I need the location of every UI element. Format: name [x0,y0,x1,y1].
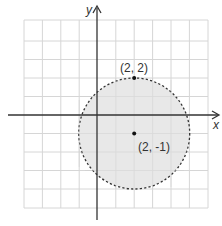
point-center [132,132,136,136]
point-center-label: (2, -1) [138,140,170,154]
point-top [132,76,136,80]
y-axis-label: y [85,3,93,17]
x-axis-label: x [212,118,220,132]
point-top-label: (2, 2) [120,61,148,75]
coordinate-plane: x y (2, 2) (2, -1) [0,0,222,226]
